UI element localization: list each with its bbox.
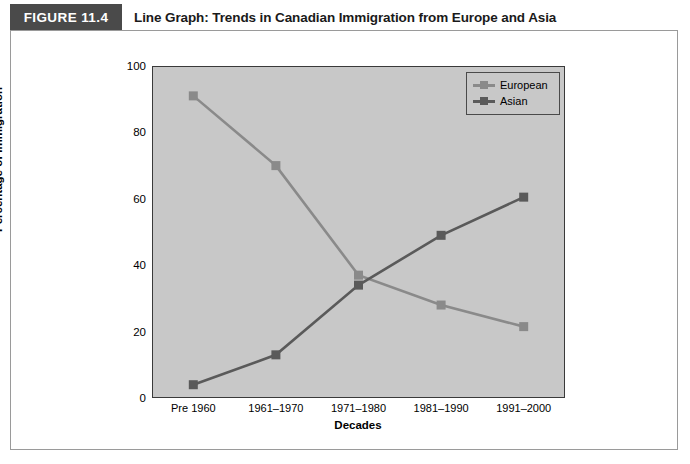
figure-container: FIGURE 11.4 Line Graph: Trends in Canadi…: [0, 0, 690, 464]
y-axis-title: Percentage of Immigration: [0, 87, 4, 232]
figure-frame: [10, 30, 678, 450]
figure-caption: Line Graph: Trends in Canadian Immigrati…: [122, 4, 680, 30]
figure-number-badge: FIGURE 11.4: [10, 4, 122, 30]
figure-header: FIGURE 11.4 Line Graph: Trends in Canadi…: [10, 4, 680, 30]
